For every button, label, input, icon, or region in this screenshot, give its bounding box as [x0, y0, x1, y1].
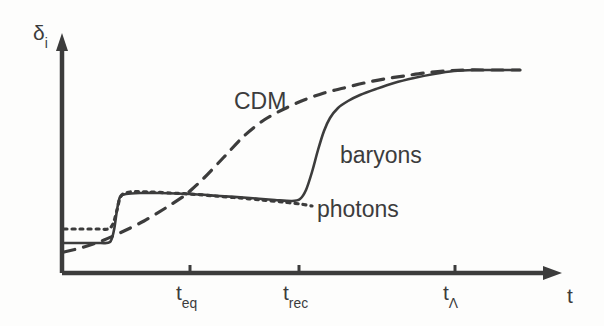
tick-label-trec: trec: [283, 282, 308, 308]
x-axis-arrowhead: [543, 266, 562, 280]
x-axis-label: t: [567, 285, 573, 306]
plot-canvas: [0, 0, 604, 326]
curve-baryons: [64, 70, 520, 243]
curve-photons: [64, 192, 312, 230]
tick-label-tlambda-base: t: [443, 281, 449, 304]
tick-label-trec-subscript: rec: [289, 295, 308, 311]
y-axis-label-subscript: i: [45, 35, 48, 51]
tick-label-teq-base: t: [176, 281, 182, 304]
tick-label-trec-base: t: [283, 281, 289, 304]
curve-cdm: [64, 70, 520, 252]
data-curves-group: [64, 70, 520, 252]
y-axis-label: δi: [33, 22, 48, 48]
curve-label-photons: photons: [317, 198, 399, 221]
tick-label-tlambda: tΛ: [443, 282, 458, 308]
curve-label-baryons: baryons: [340, 144, 422, 167]
tick-label-tlambda-subscript: Λ: [449, 295, 458, 311]
y-axis-arrowhead: [56, 33, 68, 51]
tick-label-teq: teq: [176, 282, 197, 308]
tick-label-teq-subscript: eq: [182, 295, 197, 311]
x-axis-label-symbol: t: [567, 284, 573, 307]
y-axis-label-symbol: δ: [33, 21, 45, 44]
curve-label-cdm: CDM: [234, 90, 286, 113]
cosmological-perturbation-growth-figure: δi t teq trec tΛ CDM baryons photons: [0, 0, 604, 326]
